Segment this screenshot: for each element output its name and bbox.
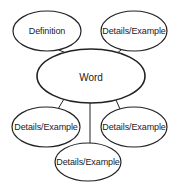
connector-details-bottom-right xyxy=(116,100,120,109)
word-label: Word xyxy=(79,72,102,83)
details-top-right-label: Details/Example xyxy=(102,26,166,36)
definition-label: Definition xyxy=(29,26,66,36)
connector-details-bottom-left xyxy=(58,99,64,109)
details-bottom-left-label: Details/Example xyxy=(14,122,78,132)
details-bottom-center-label: Details/Example xyxy=(56,157,120,167)
details-bottom-right-label: Details/Example xyxy=(102,122,166,132)
